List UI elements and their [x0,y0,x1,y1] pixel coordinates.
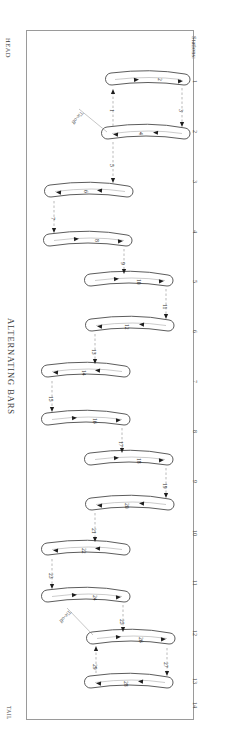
connector-5-label: 5 [109,164,115,167]
bar-12-label: 12 [124,324,130,330]
connector-1[interactable]: 1 [109,89,115,126]
bar-12[interactable]: 12 [85,316,174,331]
bar-22-label: 22 [81,548,87,554]
connector-17[interactable]: 17 [118,428,124,453]
connector-1-label: 1 [109,109,115,112]
bar-8[interactable]: 8 [43,231,132,246]
bar-6-label: 6 [83,190,89,193]
bar-24-label: 24 [92,595,98,601]
connector-23-label: 23 [48,573,54,579]
bar-4[interactable]: 4 [101,124,190,139]
bar-28[interactable]: 28 [84,673,173,688]
connector-27-label: 27 [163,662,169,668]
tie-off-head-label: Tie-off [70,110,84,125]
head-label: HEAD [5,38,12,58]
connector-9-label: 9 [120,262,126,265]
bar-22[interactable]: 22 [41,540,130,555]
connector-25-label: 25 [119,619,125,625]
connector-7-label: 7 [50,217,56,220]
bar-path-diagram: 2 4 6 [27,31,193,719]
bar-18-label: 18 [136,458,142,464]
tie-off-head: Tie-off [70,109,107,132]
bar-4-label: 4 [138,132,144,135]
bar-16[interactable]: 16 [41,410,130,425]
connector-11-label: 11 [162,304,168,310]
bar-20-label: 20 [124,503,130,509]
bar-8-label: 8 [94,239,100,242]
bar-2[interactable]: 2 [105,71,190,85]
connector-15[interactable]: 15 [48,381,54,412]
connector-21-label: 21 [91,528,97,534]
connector-13-label: 13 [91,349,97,355]
connector-9[interactable]: 9 [120,249,126,274]
bar-10[interactable]: 10 [84,271,173,286]
sheet-title: ALTERNATING BARS [6,318,16,415]
bar-26[interactable]: 26 [86,629,175,644]
bar-14-label: 14 [81,370,87,376]
station-axis: Stations: 1 2 3 4 5 6 7 8 9 10 11 12 13 … [198,30,233,720]
bar-20[interactable]: 20 [85,495,174,510]
bar-28-label: 28 [123,681,129,687]
bar-14[interactable]: 14 [41,362,130,377]
bar-6[interactable]: 6 [44,182,133,197]
bar-2-label: 2 [157,78,163,81]
bar-24[interactable]: 24 [41,587,130,602]
connector-27[interactable]: 27 [163,648,169,676]
connector-25[interactable]: 25 [119,605,125,632]
connector-19[interactable]: 19 [162,468,168,498]
connector-3-label: 3 [178,109,184,112]
bar-path-svg: 2 4 6 [27,31,193,719]
connector-19-label: 19 [162,483,168,489]
connector-21[interactable]: 21 [91,513,97,542]
connector-3[interactable]: 3 [178,88,184,127]
connector-7[interactable]: 7 [50,201,56,233]
connector-13[interactable]: 13 [91,334,97,364]
tie-off-tail: Tie-off [58,608,93,635]
alternating-bars-sheet: ALTERNATING BARS HEAD TAIL Stations: 1 2… [0,0,233,743]
connector-11[interactable]: 11 [162,289,168,319]
connector-15-label: 15 [48,396,54,402]
connector-17-label: 17 [118,441,124,447]
tail-label: TAIL [6,706,12,720]
tie-off-tail-label: Tie-off [58,609,73,624]
bar-10-label: 10 [136,279,142,285]
connector-5[interactable]: 5 [109,142,115,183]
bar-16-label: 16 [92,418,98,424]
connector-29-label: 29 [92,664,98,670]
connector-29[interactable]: 29 [92,646,98,673]
connector-23[interactable]: 23 [48,559,54,589]
bar-26-label: 26 [138,637,144,643]
bar-18[interactable]: 18 [84,450,173,465]
